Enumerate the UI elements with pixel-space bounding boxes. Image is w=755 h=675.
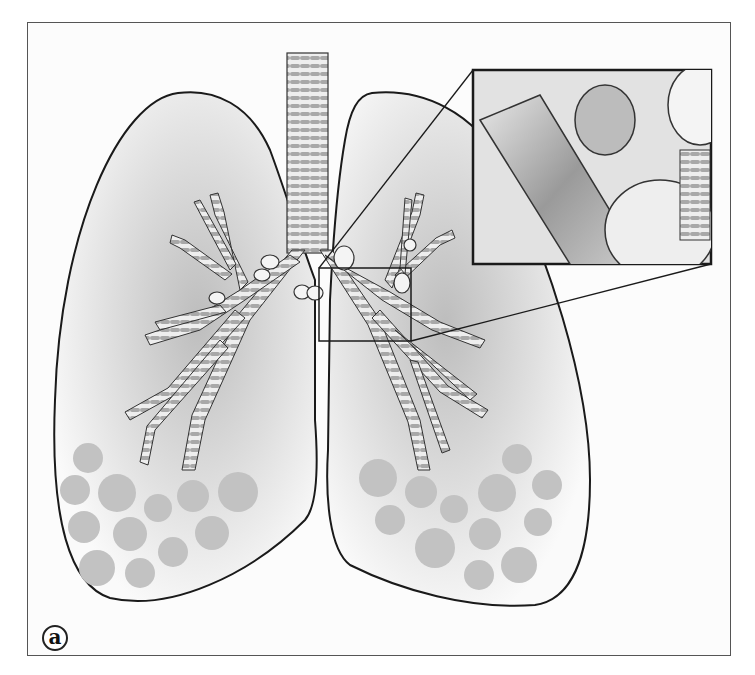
lungs-illustration <box>0 0 755 675</box>
panel-label: a <box>42 625 68 651</box>
inset-magnified-view <box>473 65 732 280</box>
trachea <box>287 53 328 253</box>
